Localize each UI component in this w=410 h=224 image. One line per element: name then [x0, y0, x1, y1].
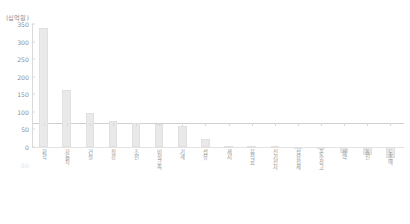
y-axis-tick-mark — [32, 94, 35, 95]
y-axis-tick-label: 350 — [17, 21, 29, 28]
y-axis-tick-mark — [32, 147, 35, 148]
x-axis-tick-mark — [205, 123, 206, 126]
bar — [224, 146, 233, 148]
x-axis-tick-mark — [136, 123, 137, 126]
bar — [86, 113, 95, 147]
x-axis-tick-mark — [229, 123, 230, 126]
x-axis-tick-mark — [182, 123, 183, 126]
y-axis-tick-label: 50 — [21, 126, 29, 133]
x-axis-category-label: 기계 — [179, 149, 185, 159]
bar — [271, 146, 280, 148]
x-axis-tick-mark — [367, 123, 368, 126]
x-axis-tick-mark — [67, 123, 68, 126]
y-axis-tick-mark — [32, 111, 35, 112]
x-axis-category-label: 도소매 — [387, 149, 393, 164]
x-axis-tick-mark — [321, 123, 322, 126]
bar — [178, 126, 187, 147]
x-axis-labels: 화학자동차건설철강조선비철금속기계섬유제지음식료전기전자석유정제운수창고제약통신… — [32, 149, 404, 223]
y-axis-tick-mark — [32, 76, 35, 77]
y-axis-tick-label: 100 — [17, 108, 29, 115]
x-axis-category-label: 조선 — [133, 149, 139, 159]
y-axis-tick-mark — [32, 24, 35, 25]
bar-chart: (십억원) 350300250200150100500-50 화학자동차건설철강… — [0, 0, 410, 224]
x-axis-tick-mark — [298, 123, 299, 126]
plot-area: 350300250200150100500-50 — [32, 24, 402, 147]
y-axis-tick-mark — [32, 129, 35, 130]
y-axis-tick-mark — [32, 41, 35, 42]
x-axis-tick-mark — [275, 123, 276, 126]
x-axis-tick-mark — [344, 123, 345, 126]
x-axis-category-label: 화학 — [41, 149, 47, 159]
x-axis-category-label: 음식료 — [249, 149, 255, 164]
x-axis-tick-mark — [252, 123, 253, 126]
x-axis-category-label: 제지 — [226, 149, 232, 159]
x-axis-category-label: 운수창고 — [318, 149, 324, 169]
bar — [201, 139, 210, 147]
x-axis-category-label: 섬유 — [202, 149, 208, 159]
x-axis-category-label: 통신 — [364, 149, 370, 159]
x-axis-category-label: 전기전자 — [272, 149, 278, 169]
bar — [132, 123, 141, 147]
x-axis-tick-mark — [390, 123, 391, 126]
x-axis-category-label: 건설 — [87, 149, 93, 159]
y-axis-tick-label: -50 — [19, 161, 29, 168]
y-axis-tick-mark — [32, 59, 35, 60]
y-axis-tick-label: 150 — [17, 91, 29, 98]
x-axis-tick-mark — [113, 123, 114, 126]
bar — [247, 146, 256, 148]
x-axis-category-label: 제약 — [341, 149, 347, 159]
x-axis-category-label: 비철금속 — [156, 149, 162, 169]
y-axis-tick-label: 200 — [17, 73, 29, 80]
y-axis-tick-label: 0 — [25, 144, 29, 151]
x-axis-category-label: 석유정제 — [295, 149, 301, 169]
bar — [39, 28, 48, 147]
x-axis-tick-mark — [44, 123, 45, 126]
bar — [62, 90, 71, 147]
y-axis-tick-label: 250 — [17, 56, 29, 63]
bar — [155, 124, 164, 147]
x-axis-tick-mark — [159, 123, 160, 126]
x-axis-tick-mark — [90, 123, 91, 126]
x-axis-category-label: 자동차 — [64, 149, 70, 164]
y-axis-tick-label: 300 — [17, 38, 29, 45]
x-axis-category-label: 철강 — [110, 149, 116, 159]
